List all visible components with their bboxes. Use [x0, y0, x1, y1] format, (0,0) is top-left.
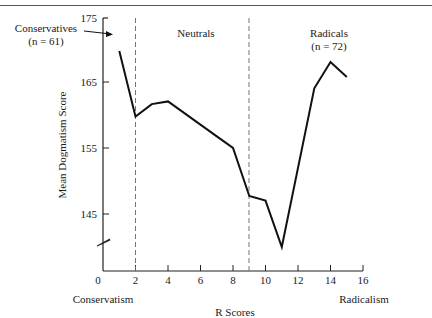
- svg-text:12: 12: [293, 274, 304, 286]
- dogmatism-line: [119, 51, 346, 247]
- x-end-label-radicalism: Radicalism: [339, 293, 389, 305]
- svg-text:14: 14: [325, 274, 337, 286]
- x-axis-label: R Scores: [215, 306, 254, 318]
- svg-text:4: 4: [165, 274, 171, 286]
- y-tick-155: 155: [81, 142, 98, 154]
- y-tick-145: 145: [81, 208, 98, 220]
- region-label-neutrals: Neutrals: [177, 27, 214, 39]
- x-ticks: 0 2 4 6 8 10 12 14 16: [95, 265, 369, 286]
- x-end-label-conservatism: Conservatism: [73, 293, 134, 305]
- y-ticks: 175 165 155 145: [81, 12, 110, 220]
- dogmatism-chart: 175 165 155 145 0 2 4 6 8 10 12 14 16 Ne…: [0, 0, 432, 318]
- region-label-radicals: Radicals: [310, 27, 348, 39]
- svg-text:10: 10: [260, 274, 272, 286]
- annotation-conservatives: Conservatives: [15, 22, 77, 34]
- svg-text:0: 0: [95, 274, 101, 286]
- y-tick-165: 165: [81, 76, 98, 88]
- svg-text:6: 6: [198, 274, 204, 286]
- svg-text:8: 8: [230, 274, 236, 286]
- radicals-n: (n = 72): [311, 40, 347, 53]
- y-axis-label: Mean Dogmatism Score: [56, 91, 68, 198]
- svg-text:16: 16: [358, 274, 370, 286]
- y-tick-175: 175: [81, 12, 98, 24]
- svg-text:2: 2: [133, 274, 139, 286]
- conservatives-n: (n = 61): [28, 35, 64, 48]
